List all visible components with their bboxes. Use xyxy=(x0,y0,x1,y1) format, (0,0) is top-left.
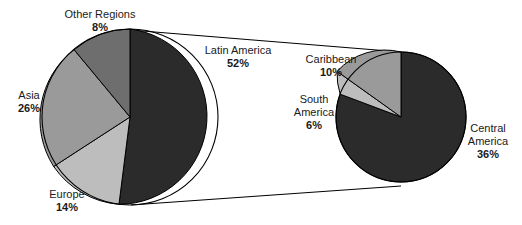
label-other-regions: Other Regions 8% xyxy=(52,8,148,34)
label-latin-america-name: Latin America xyxy=(193,44,283,57)
label-central-america-name2: America xyxy=(457,135,519,148)
label-europe: Europe 14% xyxy=(36,188,98,214)
label-south-america: South America 6% xyxy=(283,93,345,132)
label-south-america-value: 6% xyxy=(283,119,345,132)
pie-chart-figure: Other Regions 8% Asia 26% Europe 14% Lat… xyxy=(0,0,522,225)
label-europe-value: 14% xyxy=(36,201,98,214)
label-latin-america-value: 52% xyxy=(193,57,283,70)
label-asia-value: 26% xyxy=(4,102,54,115)
label-asia: Asia 26% xyxy=(4,89,54,115)
label-caribbean: Caribbean 10% xyxy=(293,53,369,79)
label-caribbean-name: Caribbean xyxy=(293,53,369,66)
label-asia-name: Asia xyxy=(4,89,54,102)
label-south-america-name: South xyxy=(283,93,345,106)
label-caribbean-value: 10% xyxy=(293,66,369,79)
main-pie xyxy=(40,29,218,205)
label-latin-america: Latin America 52% xyxy=(193,44,283,70)
label-central-america-name: Central xyxy=(457,122,519,135)
label-central-america-value: 36% xyxy=(457,148,519,161)
label-other-regions-name: Other Regions xyxy=(52,8,148,21)
label-south-america-name2: America xyxy=(283,106,345,119)
connector-line-bottom xyxy=(131,186,401,205)
label-central-america: Central America 36% xyxy=(457,122,519,161)
label-europe-name: Europe xyxy=(36,188,98,201)
label-other-regions-value: 8% xyxy=(52,21,148,34)
